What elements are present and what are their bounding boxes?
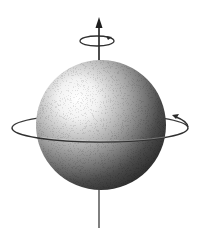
spinning-sphere-illustration (0, 0, 205, 236)
axis-arrow-icon (96, 17, 103, 28)
sphere (36, 60, 166, 190)
figure-canvas (0, 0, 205, 236)
